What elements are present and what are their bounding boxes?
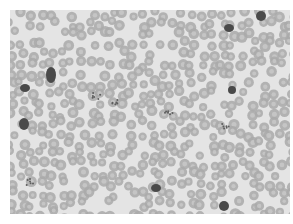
platelet <box>99 94 101 96</box>
platelet <box>169 113 171 115</box>
platelet <box>115 102 117 104</box>
platelet <box>111 102 113 104</box>
platelet <box>93 96 95 98</box>
platelet <box>167 112 169 114</box>
platelet <box>221 123 223 125</box>
platelet <box>164 112 166 114</box>
white-blood-cell <box>151 184 161 192</box>
platelet <box>30 182 32 184</box>
platelet <box>172 112 174 114</box>
white-blood-cell <box>19 118 29 130</box>
platelet <box>225 125 227 127</box>
white-blood-cell <box>219 201 229 211</box>
white-blood-cell <box>224 24 234 32</box>
white-blood-cell <box>228 86 236 94</box>
white-blood-cell <box>256 11 266 21</box>
micrograph-canvas <box>10 10 290 214</box>
platelet <box>92 92 94 94</box>
blood-smear-image <box>10 10 290 214</box>
platelet <box>114 103 116 105</box>
white-blood-cell <box>20 84 30 92</box>
platelet <box>27 179 29 181</box>
platelet <box>223 125 225 127</box>
platelet <box>97 98 99 100</box>
platelet <box>116 99 118 101</box>
platelet <box>223 128 225 130</box>
platelet <box>228 126 230 128</box>
white-blood-cell <box>46 67 56 83</box>
platelet <box>29 178 31 180</box>
platelet <box>32 182 34 184</box>
platelet <box>26 184 28 186</box>
